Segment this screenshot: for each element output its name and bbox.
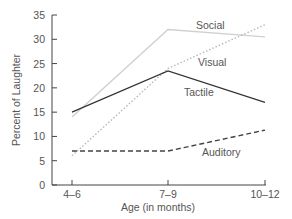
series-label-visual: Visual (198, 56, 226, 68)
y-tick-label: 5 (39, 155, 45, 167)
y-axis-ticks: 05101520253035 (33, 9, 57, 191)
line-chart: 05101520253035 4–67–910–12 Percent of La… (0, 0, 292, 219)
y-tick-label: 15 (33, 106, 45, 118)
series-label-tactile: Tactile (184, 86, 214, 98)
x-axis-ticks: 4–67–910–12 (63, 180, 280, 200)
series-social-line (72, 30, 265, 117)
chart-canvas: 05101520253035 4–67–910–12 Percent of La… (0, 0, 292, 219)
series-label-social: Social (196, 19, 225, 31)
x-axis-label: Age (in months) (121, 201, 195, 213)
y-tick-label: 20 (33, 82, 45, 94)
y-tick-label: 25 (33, 58, 45, 70)
x-tick-label: 4–6 (63, 188, 81, 200)
x-tick-label: 7–9 (159, 188, 177, 200)
y-tick-label: 10 (33, 130, 45, 142)
y-tick-label: 35 (33, 9, 45, 21)
series-lines (72, 25, 265, 156)
y-tick-label: 30 (33, 33, 45, 45)
series-label-auditory: Auditory (202, 146, 241, 158)
y-axis-label: Percent of Laughter (10, 53, 22, 146)
x-tick-label: 10–12 (250, 188, 279, 200)
y-tick-label: 0 (39, 179, 45, 191)
